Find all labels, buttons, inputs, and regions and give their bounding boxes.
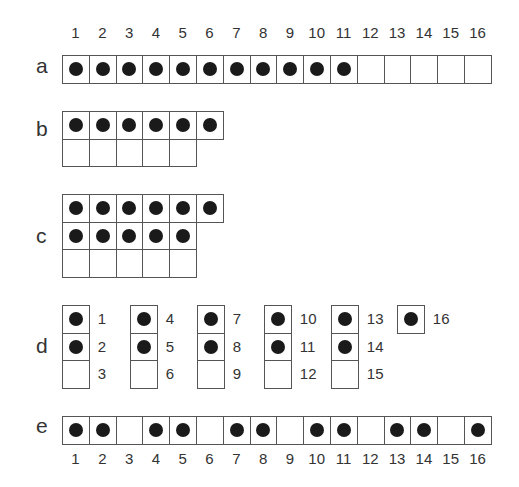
column-number: 13 xyxy=(384,450,411,467)
dot-icon xyxy=(337,62,351,76)
filled-cell xyxy=(142,222,170,251)
empty-cell xyxy=(357,416,385,445)
column-number: 15 xyxy=(437,24,464,41)
group-number: 2 xyxy=(98,338,106,355)
dot-icon xyxy=(96,118,110,132)
dot-icon xyxy=(176,229,190,243)
filled-cell xyxy=(196,194,224,223)
filled-cell xyxy=(142,416,170,445)
filled-cell xyxy=(62,222,90,251)
filled-cell xyxy=(197,333,225,362)
dot-icon xyxy=(149,62,163,76)
filled-cell xyxy=(223,55,251,84)
group-number: 9 xyxy=(233,365,241,382)
filled-cell xyxy=(384,416,412,445)
dot-icon xyxy=(203,118,217,132)
group-number: 13 xyxy=(367,310,384,327)
group-number: 3 xyxy=(98,365,106,382)
filled-cell xyxy=(264,305,292,334)
column-number: 7 xyxy=(223,24,250,41)
empty-cell xyxy=(437,55,465,84)
empty-cell xyxy=(142,139,170,168)
column-number: 3 xyxy=(116,24,143,41)
dot-icon xyxy=(203,201,217,215)
filled-cell xyxy=(62,194,90,223)
dot-icon xyxy=(283,62,297,76)
empty-cell xyxy=(169,139,197,168)
empty-cell xyxy=(276,416,304,445)
row-label-a: a xyxy=(36,54,48,78)
dot-icon xyxy=(149,229,163,243)
filled-cell xyxy=(303,55,331,84)
empty-cell xyxy=(196,416,224,445)
column-number: 2 xyxy=(89,450,116,467)
empty-cell xyxy=(464,55,492,84)
empty-cell xyxy=(62,249,90,278)
dot-icon xyxy=(96,62,110,76)
dot-icon xyxy=(96,423,110,437)
filled-cell xyxy=(196,55,224,84)
column-number: 12 xyxy=(357,24,384,41)
column-number: 16 xyxy=(464,24,491,41)
group-number: 7 xyxy=(233,310,241,327)
empty-cell xyxy=(89,139,117,168)
column-number: 2 xyxy=(89,24,116,41)
group-number: 14 xyxy=(367,338,384,355)
dot-icon xyxy=(417,423,431,437)
column-number: 13 xyxy=(384,24,411,41)
filled-cell xyxy=(116,111,144,140)
filled-cell xyxy=(331,333,359,362)
filled-cell xyxy=(264,333,292,362)
dot-icon xyxy=(203,62,217,76)
group-number: 5 xyxy=(166,338,174,355)
dot-icon xyxy=(137,340,151,354)
column-number: 1 xyxy=(62,450,89,467)
empty-cell xyxy=(169,249,197,278)
group-number: 6 xyxy=(166,365,174,382)
filled-cell xyxy=(250,55,278,84)
filled-cell xyxy=(142,194,170,223)
filled-cell xyxy=(223,416,251,445)
dot-icon xyxy=(310,423,324,437)
filled-cell xyxy=(89,111,117,140)
column-number: 5 xyxy=(169,450,196,467)
column-number: 7 xyxy=(223,450,250,467)
filled-cell xyxy=(464,416,492,445)
row-label-d: d xyxy=(36,334,48,358)
empty-cell xyxy=(384,55,412,84)
dot-icon xyxy=(176,423,190,437)
filled-cell xyxy=(197,305,225,334)
dot-icon xyxy=(122,62,136,76)
filled-cell xyxy=(62,111,90,140)
filled-cell xyxy=(142,55,170,84)
group-number: 8 xyxy=(233,338,241,355)
dot-icon xyxy=(230,62,244,76)
dot-icon xyxy=(149,118,163,132)
empty-cell xyxy=(357,55,385,84)
filled-cell xyxy=(169,111,197,140)
dot-icon xyxy=(338,312,352,326)
column-number: 14 xyxy=(410,24,437,41)
dot-icon xyxy=(204,312,218,326)
dot-icon xyxy=(338,340,352,354)
group-number: 12 xyxy=(300,365,317,382)
column-number: 9 xyxy=(276,450,303,467)
empty-cell xyxy=(116,416,144,445)
filled-cell xyxy=(169,222,197,251)
group-number: 16 xyxy=(433,310,450,327)
dot-icon xyxy=(310,62,324,76)
dot-icon xyxy=(96,201,110,215)
empty-cell xyxy=(437,416,465,445)
empty-cell xyxy=(197,360,225,389)
dot-icon xyxy=(230,423,244,437)
empty-cell xyxy=(264,360,292,389)
column-number: 10 xyxy=(303,24,330,41)
filled-cell xyxy=(169,194,197,223)
column-number: 10 xyxy=(303,450,330,467)
filled-cell xyxy=(330,55,358,84)
column-number: 15 xyxy=(437,450,464,467)
empty-cell xyxy=(410,55,438,84)
dot-icon xyxy=(271,312,285,326)
dot-icon xyxy=(69,118,83,132)
dot-icon xyxy=(69,229,83,243)
